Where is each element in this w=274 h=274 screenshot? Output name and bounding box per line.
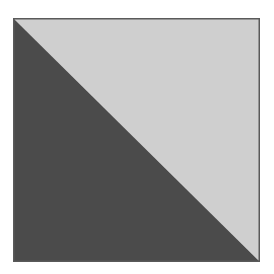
square-graphic [13,18,260,262]
diagonal-split-square [13,18,260,262]
